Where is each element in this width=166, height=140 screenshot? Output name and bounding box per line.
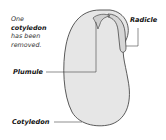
removed-cotyledon-note: One cotyledon has been removed. <box>11 15 46 49</box>
note-line: One <box>11 15 46 24</box>
note-line-bold: cotyledon <box>11 24 46 33</box>
radicle-label: Radicle <box>130 16 157 24</box>
note-line: has been <box>11 32 46 41</box>
cotyledon-label: Cotyledon <box>12 118 50 126</box>
note-line: removed. <box>11 41 46 50</box>
plumule-label: Plumule <box>13 68 43 76</box>
